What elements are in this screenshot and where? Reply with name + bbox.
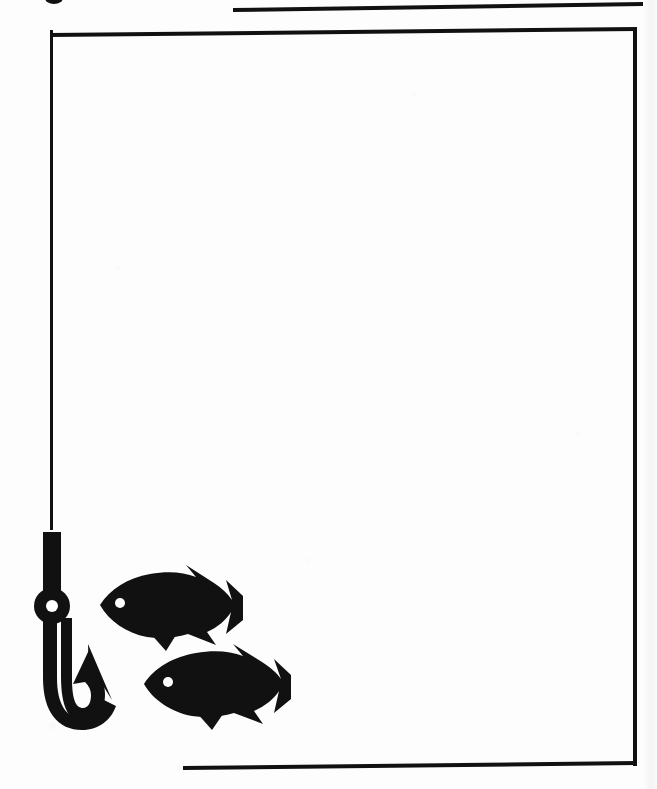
- fish-upper-eye: [115, 598, 125, 608]
- fish-upper-icon: [100, 565, 243, 651]
- fish-lower-eye: [163, 677, 173, 687]
- border-frame-lines: [50, 27, 637, 770]
- line-art-illustration: [0, 0, 657, 789]
- fishing-line-stroke: [50, 30, 53, 530]
- page-canvas: Fishing Hook and Fish scanned line art b…: [0, 0, 657, 789]
- fish-lower-icon: [144, 644, 291, 730]
- fish-hook-icon: [34, 532, 116, 730]
- top-rule-line: [233, 2, 643, 12]
- clipped-mark-icon: [45, 0, 63, 4]
